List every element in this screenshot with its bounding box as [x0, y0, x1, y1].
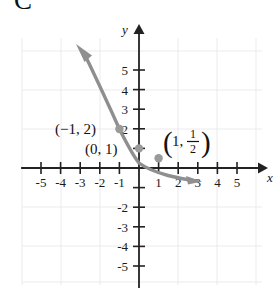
- x-tick-label--1: -1: [114, 175, 125, 190]
- y-tick-label-5: 5: [122, 63, 129, 78]
- x-tick-label--2: -2: [94, 175, 105, 190]
- label-point-neg1-2: (−1, 2): [55, 121, 96, 138]
- y-tick-label-4: 4: [122, 83, 129, 98]
- y-axis-label: y: [120, 22, 128, 37]
- label-x-part: 1,: [172, 133, 183, 149]
- x-tick-label-1: 1: [155, 175, 162, 190]
- axes: [22, 34, 258, 287]
- fraction-denominator: 2: [190, 142, 196, 156]
- x-tick-label-4: 4: [214, 175, 221, 190]
- point-neg1-2: [115, 125, 123, 133]
- y-tick-label--3: -3: [117, 220, 128, 235]
- y-tick-label-3: 3: [122, 102, 129, 117]
- y-tick-label--2: -2: [117, 200, 128, 215]
- exponential-graph-figure: C: [0, 0, 280, 289]
- point-0-1: [135, 144, 143, 152]
- label-point-1-half: ( 1, 1 2 ): [163, 126, 211, 159]
- x-tick-label--3: -3: [75, 175, 86, 190]
- y-axis-arrowhead: [134, 24, 145, 34]
- x-tick-label--4: -4: [55, 175, 66, 190]
- curve-arrowhead-upper-left: [76, 44, 92, 62]
- fraction-numerator: 1: [190, 127, 196, 141]
- grid-lines: [22, 38, 262, 285]
- x-axis-label: x: [266, 170, 273, 185]
- coordinate-plane-plot: -5 -4 -3 -2 -1 1 2 3 4 5 5 4 3 2 -2 -3 -…: [0, 0, 280, 289]
- label-point-0-1: (0, 1): [85, 141, 118, 158]
- point-1-half: [154, 154, 162, 162]
- y-tick-label--5: -5: [117, 259, 128, 274]
- label-close-paren: ): [201, 126, 211, 159]
- x-tick-label-5: 5: [234, 175, 241, 190]
- y-tick-label--4: -4: [117, 239, 128, 254]
- x-tick-label--5: -5: [36, 175, 47, 190]
